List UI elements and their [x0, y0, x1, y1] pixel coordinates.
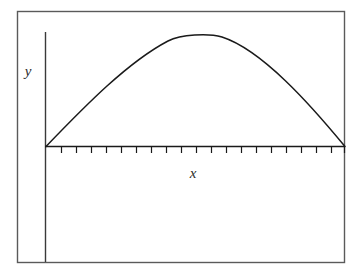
plot-canvas: y x [0, 0, 362, 273]
y-axis-label: y [23, 63, 32, 79]
figure-container: y x [0, 0, 362, 273]
figure-border [18, 12, 345, 263]
x-axis-label: x [189, 165, 197, 181]
